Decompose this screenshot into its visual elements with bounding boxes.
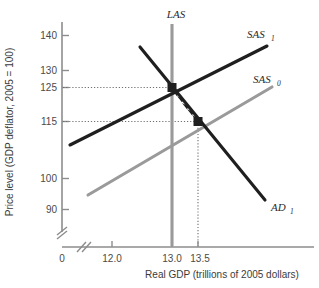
guide-lines-group [63,88,198,247]
curve-label-ad1: AD 1 [270,201,294,216]
y-tick-label-125: 125 [40,82,57,93]
x-axis-title: Real GDP (trillions of 2005 dollars) [145,269,299,280]
curve-label-las: LAS [166,8,186,20]
x-tick-label-0: 0 [59,253,65,264]
x-tick-label-12: 12.0 [102,253,122,264]
x-tick-label-13: 13.0 [162,253,182,264]
y-tick-label-140: 140 [40,30,57,41]
curve-sas0[interactable] [88,87,272,195]
y-tick-label-100: 100 [40,173,57,184]
x-axis-ticks [112,241,198,247]
curve-label-sas1: SAS 1 [247,28,275,43]
chart-canvas: 140 130 125 115 100 90 0 12.0 13.0 13.5 … [0,0,319,288]
y-tick-label-130: 130 [40,65,57,76]
curve-label-sas1-base: SAS [247,28,265,40]
as-ad-chart: 140 130 125 115 100 90 0 12.0 13.0 13.5 … [0,0,319,288]
curve-label-sas0: SAS 0 [253,73,281,88]
curve-label-sas1-sub: 1 [271,34,275,43]
curve-label-ad1-sub: 1 [290,207,294,216]
curve-label-sas0-base: SAS [253,73,271,85]
marker-new-equilibrium[interactable] [168,83,177,92]
x-tick-label-13-5: 13.5 [190,253,210,264]
curve-sas1[interactable] [70,46,267,145]
y-axis-ticks [62,36,69,210]
marker-initial-equilibrium[interactable] [194,117,203,126]
adjustment-arrows [172,90,199,121]
curve-label-sas0-sub: 0 [277,79,281,88]
curve-label-ad1-base: AD [270,201,286,213]
y-axis-title: Price level (GDP deflator, 2005 = 100) [4,48,15,217]
y-tick-label-115: 115 [41,116,57,127]
y-tick-label-90: 90 [46,204,58,215]
